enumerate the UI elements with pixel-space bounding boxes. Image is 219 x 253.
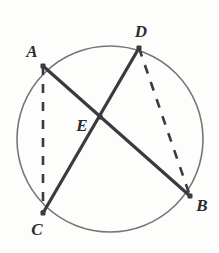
label-point-a: A: [26, 43, 37, 60]
geometry-figure: A D E B C: [0, 0, 219, 253]
geometry-canvas: [0, 0, 219, 253]
vertex-dot-b: [188, 194, 193, 199]
chord-d-c: [43, 48, 139, 213]
label-point-d: D: [135, 23, 147, 40]
vertex-dot-d: [137, 46, 142, 51]
circumscribed-circle: [17, 46, 203, 232]
label-point-b: B: [196, 197, 207, 214]
vertex-dot-c: [41, 211, 46, 216]
label-point-c: C: [31, 221, 42, 238]
vertex-dot-e: [98, 115, 103, 120]
vertex-dot-a: [41, 64, 46, 69]
label-point-e: E: [76, 117, 87, 134]
